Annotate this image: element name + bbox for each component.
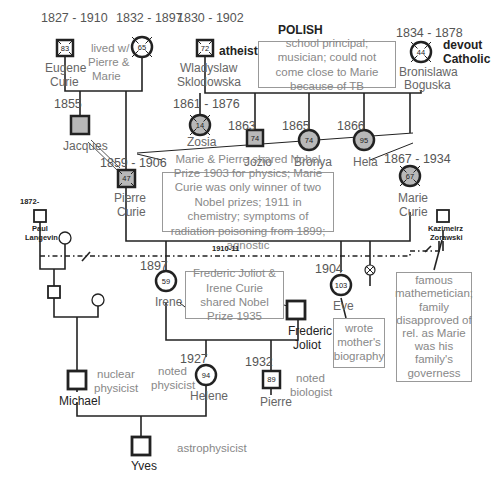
symbol-bronislawa: 44: [411, 42, 431, 62]
sophie-note-3: Marie: [92, 70, 121, 83]
symbol-paul-langevin: [34, 210, 46, 222]
sophie-years: 1832 - 1897: [116, 12, 183, 25]
svg-text:67: 67: [406, 172, 414, 181]
michael-name: Michael: [59, 395, 100, 407]
zosia-years: 1861 - 1876: [173, 98, 240, 111]
symbol-sophie: 65: [132, 37, 152, 57]
pierre-name-2: Curie: [117, 206, 146, 218]
michael-note-2: physicist: [94, 382, 138, 395]
separation-slash-kazimeirz: [425, 246, 431, 252]
bronislawa-note-1: devout: [443, 39, 482, 51]
paul-name-1: Paul: [32, 225, 48, 233]
symbol-pierre-joliot: 89: [263, 371, 280, 388]
marie-name-1: Marie: [398, 192, 428, 204]
marriage-line-langevin-son: [54, 298, 98, 317]
eve-name: Eve: [333, 300, 354, 312]
note-link-kazimeirz: [434, 240, 442, 270]
svg-text:14: 14: [196, 121, 204, 130]
kazimeirz-name-1: Kazimeirz: [428, 225, 463, 233]
symbol-marie: 67: [400, 166, 420, 186]
svg-text:44: 44: [417, 48, 425, 57]
symbol-eve: 103: [331, 275, 351, 295]
symbol-langevin-son: [48, 286, 60, 298]
yves-note: astrophysicist: [177, 442, 247, 455]
symbol-zosia: 14: [190, 115, 210, 135]
svg-text:95: 95: [360, 136, 368, 145]
irene-years: 1897: [140, 260, 168, 273]
pierre-name-1: Pierre: [114, 192, 146, 204]
symbol-kazimeirz: [437, 210, 449, 222]
jozio-years: 1863: [228, 120, 256, 133]
eugene-years: 1827 - 1910: [41, 12, 108, 25]
michael-note-1: nuclear: [97, 368, 135, 381]
polish-label: POLISH: [278, 24, 323, 36]
svg-text:47: 47: [122, 174, 130, 183]
jacques-years: 1855: [54, 98, 82, 111]
pierre-joliot-name: Pierre: [260, 396, 292, 408]
paul-name-2: Langevin: [25, 234, 58, 242]
symbol-langevin-son-wife: [92, 294, 104, 306]
svg-text:72: 72: [201, 44, 209, 53]
sophie-note-1: lived w/: [91, 42, 129, 55]
svg-text:103: 103: [335, 281, 348, 290]
bronislawa-note-2: Catholic: [443, 53, 490, 65]
irene-name: Irene: [155, 296, 182, 308]
symbol-wladyslaw: 72: [197, 40, 213, 56]
wladyslaw-name-2: Sklodowska: [177, 76, 241, 88]
symbol-yves: [132, 437, 150, 455]
symbol-pierre: 47: [118, 170, 135, 187]
helene-note-2: physicist: [151, 379, 195, 392]
pierre-years: 1859 - 1906: [100, 157, 167, 170]
wladyslaw-note: atheist: [219, 45, 258, 57]
bronislawa-name-2: Boguska: [404, 79, 451, 91]
marie-years: 1867 - 1934: [384, 153, 451, 166]
eugene-name-1: Eugene: [45, 62, 86, 74]
svg-text:74: 74: [251, 134, 259, 143]
symbol-michael: [68, 371, 86, 389]
helene-note-1: noted: [158, 365, 187, 378]
note-joliots: Frederic Joliot & Irene Curie shared Nob…: [185, 271, 284, 319]
svg-text:65: 65: [138, 43, 146, 52]
symbol-miscarriage: [365, 265, 375, 275]
symbol-eugene: 83: [57, 40, 73, 56]
wladyslaw-name-1: Wladyslaw: [180, 62, 237, 74]
yves-name: Yves: [131, 460, 157, 472]
symbol-jacques: [71, 116, 89, 134]
svg-text:83: 83: [61, 44, 69, 53]
symbol-langevin-wife: [59, 232, 71, 244]
eve-years: 1904: [315, 263, 343, 276]
note-polish-parents: school principal; musician; could not co…: [258, 41, 396, 88]
kazimeirz-name-2: Zorawski: [430, 234, 463, 242]
marie-name-2: Curie: [399, 206, 428, 218]
symbol-frederic: [287, 301, 305, 319]
genogram: 83 65 72 44 14: [0, 0, 493, 487]
symbol-irene: 59: [156, 271, 176, 291]
bronislawa-name-1: Bronislawa: [399, 66, 458, 78]
wladyslaw-years: 1830 - 1902: [177, 12, 244, 25]
paul-years: 1872-: [20, 198, 39, 206]
separation-slash-paul: [82, 252, 90, 261]
zosia-name: Zosia: [187, 136, 216, 148]
frederic-name-1: Frederic: [288, 325, 332, 337]
hela-name: Hela: [353, 156, 378, 168]
symbol-hela: 95: [354, 130, 374, 150]
helene-years: 1927: [180, 353, 208, 366]
svg-text:74: 74: [305, 136, 313, 145]
symbol-bronya: 74: [299, 130, 319, 150]
eugene-name-2: Curie: [50, 76, 79, 88]
affair-years: 1910-11: [212, 245, 239, 253]
note-kazimeirz: famous mathemetician; family disapproved…: [396, 272, 472, 382]
note-eve: wrote mother's biography: [333, 318, 385, 368]
jacques-name: Jacques: [63, 140, 108, 152]
svg-text:94: 94: [202, 371, 210, 380]
note-curies: Marie & Pierre shared Nobel Prize 1903 f…: [162, 172, 334, 232]
sophie-note-2: Pierre &: [88, 56, 130, 69]
svg-text:89: 89: [267, 375, 275, 384]
pierre-joliot-note-2: biologist: [290, 386, 332, 399]
helene-name: Helene: [190, 390, 228, 402]
symbol-helene: 94: [196, 365, 216, 385]
pierre-joliot-note-1: noted: [296, 372, 325, 385]
frederic-name-2: Joliot: [293, 339, 321, 351]
hela-years: 1866: [337, 120, 365, 133]
pierre-joliot-years: 1932: [245, 356, 273, 369]
